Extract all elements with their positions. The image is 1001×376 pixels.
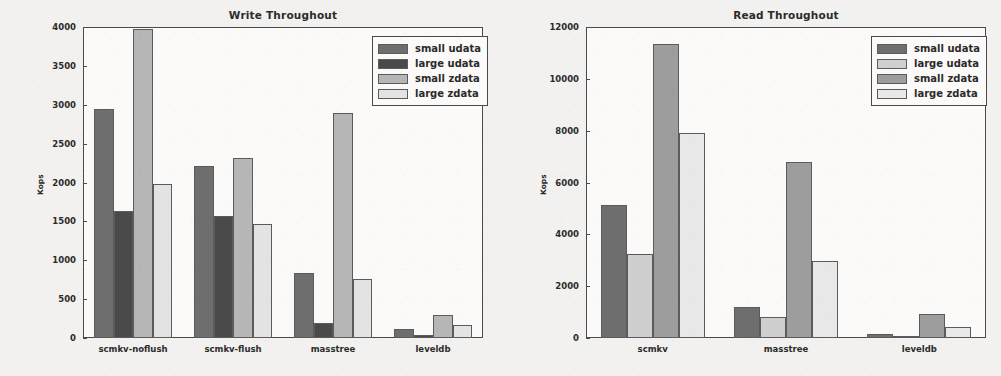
legend-label: large udata <box>914 59 979 69</box>
legend-label: small udata <box>914 44 980 54</box>
bar <box>394 329 414 338</box>
legend-swatch-icon <box>877 44 907 54</box>
bar <box>734 307 760 338</box>
chart-title: Read Throughout <box>586 9 986 21</box>
bar <box>333 113 353 338</box>
legend-item: small zdata <box>378 71 481 86</box>
y-tick-mark <box>586 286 590 287</box>
y-tick-mark <box>83 260 87 261</box>
bar <box>314 323 334 338</box>
y-tick-mark <box>586 234 590 235</box>
legend-item: small udata <box>877 41 980 56</box>
legend-swatch-icon <box>378 44 408 54</box>
bar <box>945 327 971 338</box>
legend: small udatalarge udatasmall zdatalarge z… <box>372 36 488 106</box>
bar <box>760 317 786 338</box>
y-tick-label: 6000 <box>500 178 579 188</box>
y-tick-mark <box>83 66 87 67</box>
legend-label: large zdata <box>914 89 978 99</box>
legend-item: large udata <box>877 56 980 71</box>
y-tick-label: 0 <box>0 333 76 343</box>
y-tick-label: 0 <box>500 333 579 343</box>
bar <box>233 158 253 338</box>
bar <box>194 166 214 338</box>
bar <box>601 205 627 338</box>
y-tick-mark <box>586 27 590 28</box>
y-tick-label: 12000 <box>500 22 579 32</box>
legend-swatch-icon <box>378 89 408 99</box>
y-tick-mark <box>83 299 87 300</box>
y-tick-label: 2500 <box>0 139 76 149</box>
bar <box>812 261 838 338</box>
y-tick-label: 1000 <box>0 255 76 265</box>
legend-label: large zdata <box>415 89 479 99</box>
bar <box>414 335 434 338</box>
y-tick-mark <box>83 221 87 222</box>
y-tick-label: 3500 <box>0 61 76 71</box>
bar <box>114 211 134 338</box>
x-tick-label: leveldb <box>415 344 450 354</box>
bar <box>627 254 653 338</box>
bar <box>153 184 173 338</box>
legend: small udatalarge udatasmall zdatalarge z… <box>871 36 987 106</box>
y-tick-mark <box>586 183 590 184</box>
y-tick-mark <box>83 338 87 339</box>
y-tick-label: 4000 <box>500 229 579 239</box>
y-tick-label: 2000 <box>500 281 579 291</box>
x-tick-label: leveldb <box>902 344 937 354</box>
x-tick-label: masstree <box>764 344 809 354</box>
legend-swatch-icon <box>378 74 408 84</box>
legend-swatch-icon <box>378 59 408 69</box>
x-tick-label: scmkv-flush <box>204 344 261 354</box>
bar <box>919 314 945 338</box>
y-tick-label: 8000 <box>500 126 579 136</box>
bar <box>294 273 314 338</box>
chart-read-throughout: Read Throughout Kops 0200040006000800010… <box>500 0 1001 376</box>
bar <box>94 109 114 338</box>
chart-title: Write Throughout <box>83 9 483 21</box>
legend-item: large zdata <box>378 86 481 101</box>
legend-label: small zdata <box>415 74 480 84</box>
legend-swatch-icon <box>877 89 907 99</box>
y-tick-mark <box>83 105 87 106</box>
bar <box>653 44 679 338</box>
bar <box>453 325 473 338</box>
bar <box>433 315 453 338</box>
figure-panel: Write Throughout Kops 050010001500200025… <box>0 0 1001 376</box>
y-tick-mark <box>83 144 87 145</box>
y-tick-label: 3000 <box>0 100 76 110</box>
legend-label: large udata <box>415 59 480 69</box>
legend-swatch-icon <box>877 59 907 69</box>
y-tick-label: 2000 <box>0 178 76 188</box>
chart-write-throughout: Write Throughout Kops 050010001500200025… <box>0 0 500 376</box>
bar <box>353 279 373 338</box>
bar <box>214 216 234 338</box>
y-tick-mark <box>586 79 590 80</box>
legend-label: small zdata <box>914 74 979 84</box>
legend-item: large udata <box>378 56 481 71</box>
x-tick-label: scmkv-noflush <box>98 344 167 354</box>
bar <box>679 133 705 338</box>
y-tick-mark <box>586 131 590 132</box>
legend-swatch-icon <box>877 74 907 84</box>
x-tick-label: scmkv <box>638 344 668 354</box>
y-tick-label: 4000 <box>0 22 76 32</box>
x-tick-label: masstree <box>311 344 356 354</box>
legend-item: small udata <box>378 41 481 56</box>
legend-item: small zdata <box>877 71 980 86</box>
legend-item: large zdata <box>877 86 980 101</box>
bar <box>786 162 812 338</box>
y-tick-label: 500 <box>0 294 76 304</box>
y-tick-mark <box>586 338 590 339</box>
bar <box>253 224 273 338</box>
bar <box>893 336 919 338</box>
bar <box>133 29 153 338</box>
legend-label: small udata <box>415 44 481 54</box>
y-tick-label: 10000 <box>500 74 579 84</box>
bar <box>867 334 893 338</box>
y-tick-label: 1500 <box>0 216 76 226</box>
y-tick-mark <box>83 183 87 184</box>
y-tick-mark <box>83 27 87 28</box>
